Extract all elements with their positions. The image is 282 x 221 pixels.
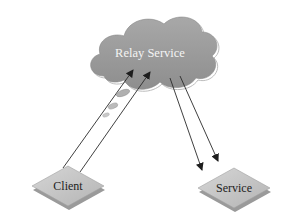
arrow-relay-to-service-1	[170, 78, 202, 170]
arrow-client-to-relay-1	[63, 70, 133, 168]
relay-diagram: Relay Service Client Service	[0, 0, 282, 221]
service-label: Service	[216, 181, 252, 196]
arrow-relay-to-service-2	[180, 76, 218, 161]
arrow-client-to-relay-2	[80, 72, 150, 172]
message-packets	[102, 88, 131, 118]
client-label: Client	[53, 179, 82, 194]
relay-service-label: Relay Service	[115, 46, 185, 61]
